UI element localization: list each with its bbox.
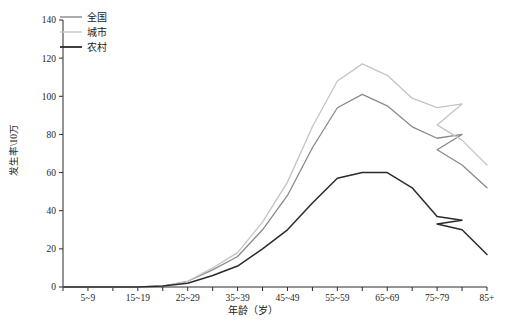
x-tick-labels: 5~915~1925~2935~3945~4955~5965~6975~7985… [81,293,495,303]
y-tick-label: 20 [47,244,57,254]
x-tick-label: 55~59 [325,293,349,303]
y-tick-label: 140 [42,15,57,25]
y-tick-labels: 020406080100120140 [42,15,57,292]
y-tick-marks [59,20,63,287]
x-tick-label: 45~49 [275,293,299,303]
chart-legend: 全国城市农村 [60,11,107,53]
y-tick-label: 80 [47,130,57,140]
x-tick-label: 85+ [480,293,495,303]
series-line-农村 [63,173,487,287]
y-tick-label: 40 [47,206,57,216]
x-axis-title: 年龄（岁） [228,304,278,316]
legend-label-城市: 城市 [87,26,107,38]
x-tick-label: 75~79 [425,293,449,303]
x-tick-label: 35~39 [226,293,250,303]
legend-label-农村: 农村 [87,41,107,53]
y-axis-title: 发生率\10万 [8,124,19,176]
series-line-全国 [63,94,487,287]
y-tick-label: 0 [51,282,56,292]
legend-label-全国: 全国 [87,11,107,23]
y-tick-label: 100 [42,92,57,102]
x-tick-label: 25~29 [176,293,200,303]
chart-canvas: 020406080100120140 5~915~1925~2935~3945~… [0,0,507,325]
x-axis: 5~915~1925~2935~3945~4955~5965~6975~7985… [63,287,494,303]
y-tick-label: 60 [47,168,57,178]
y-tick-label: 120 [42,54,57,64]
line-chart: 020406080100120140 5~915~1925~2935~3945~… [0,0,507,325]
y-axis: 020406080100120140 [42,15,63,292]
x-tick-label: 15~19 [126,293,150,303]
series-lines [63,64,487,287]
series-line-城市 [63,64,487,287]
x-tick-label: 5~9 [81,293,96,303]
x-tick-label: 65~69 [375,293,399,303]
